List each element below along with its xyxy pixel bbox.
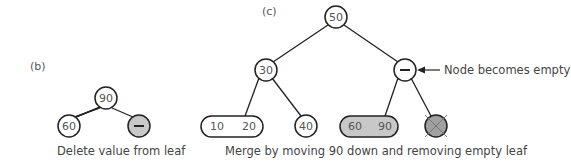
panel-c-label: (c)	[262, 5, 277, 18]
svg-text:90: 90	[99, 92, 113, 105]
node-30: 30	[255, 59, 277, 81]
svg-text:60: 60	[62, 120, 76, 133]
panel-b-caption: Delete value from leaf	[57, 144, 186, 158]
svg-text:40: 40	[299, 120, 313, 133]
svg-text:10: 10	[210, 120, 224, 133]
panel-c-caption: Merge by moving 90 down and removing emp…	[225, 144, 528, 158]
node-empty-shaded	[128, 115, 150, 137]
tree-diagram: (b) 90 60 Delete value from leaf (c) 50 …	[0, 0, 571, 162]
svg-text:60: 60	[348, 120, 362, 133]
svg-text:50: 50	[329, 11, 343, 24]
svg-text:30: 30	[259, 64, 273, 77]
svg-text:20: 20	[242, 120, 256, 133]
node-50: 50	[325, 6, 347, 28]
annotation-node-becomes-empty: Node becomes empty	[444, 63, 570, 77]
removed-node-crossed	[425, 115, 447, 137]
panel-b-label: (b)	[30, 60, 46, 73]
node-60: 60	[58, 115, 80, 137]
node-90: 90	[95, 87, 117, 109]
node-empty	[394, 59, 416, 81]
node-60-90-shaded: 60 90	[340, 116, 398, 137]
node-40: 40	[295, 115, 317, 137]
node-10-20: 10 20	[201, 116, 263, 137]
arrow-icon	[417, 67, 440, 74]
svg-text:90: 90	[378, 120, 392, 133]
